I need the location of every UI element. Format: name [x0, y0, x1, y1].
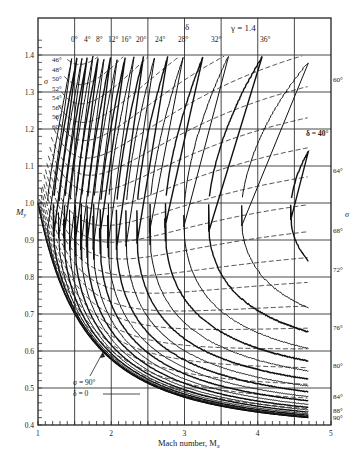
delta-label: 0° — [71, 35, 78, 44]
sigma-symbol-right: σ — [345, 210, 350, 219]
x-tick-label: 2 — [109, 429, 113, 438]
gamma-label: γ = 1.4 — [230, 23, 256, 33]
sigma-right-label: 84° — [333, 393, 343, 401]
y-tick-label: 1.1 — [25, 162, 35, 171]
x-axis-title: Mach number, Mx — [158, 438, 220, 449]
sigma-left-label: 60° — [52, 123, 62, 131]
delta-label: 12° — [108, 35, 119, 44]
delta-curve-18 — [93, 60, 308, 405]
delta-curve-36 — [209, 57, 309, 333]
y-tick-label: 1.4 — [25, 51, 35, 60]
sigma-left-label: 54° — [52, 94, 62, 102]
sigma-left-label: 46° — [52, 56, 62, 64]
sigma-right-label: 68° — [333, 227, 343, 235]
oblique-shock-chart: 123450.40.50.60.70.80.91.01.11.21.31.4 γ… — [0, 0, 364, 465]
y-axis-title: My — [15, 207, 27, 218]
y-tick-label: 0.4 — [25, 421, 35, 430]
sigma-left-label: 58° — [52, 113, 62, 121]
sigma-right-label: 72° — [333, 266, 343, 274]
sigma-left-label: 52° — [52, 85, 62, 93]
delta-curve-28 — [137, 56, 308, 379]
delta-curve-32 — [165, 57, 308, 361]
y-tick-label: 0.7 — [25, 310, 35, 319]
delta-40-label: δ = 40° — [306, 129, 328, 138]
delta-symbol: δ — [185, 22, 189, 32]
sigma-right-label: 76° — [333, 324, 343, 332]
sigma-curve-66 — [45, 170, 307, 243]
delta-label: 32° — [211, 35, 222, 44]
sigma-left-label: 48° — [52, 66, 62, 74]
y-tick-label: 0.6 — [25, 347, 35, 356]
x-tick-label: 4 — [256, 429, 260, 438]
sigma-curve-82 — [40, 203, 308, 384]
y-tick-label: 1.3 — [25, 88, 35, 97]
sigma-right-label: 64° — [333, 167, 343, 175]
delta-label: 28° — [178, 35, 189, 44]
sigma-right-label: 80° — [333, 362, 343, 370]
y-tick-label: 0.5 — [25, 384, 35, 393]
delta-label: 16° — [121, 35, 132, 44]
delta-label: 4° — [84, 35, 91, 44]
y-tick-label: 1.2 — [25, 125, 35, 134]
delta-label: 24° — [155, 35, 166, 44]
y-tick-label: 1.0 — [25, 199, 35, 208]
delta-curve-26 — [126, 58, 308, 386]
sigma-right-label: 90° — [333, 414, 343, 422]
delta-label: 8° — [96, 35, 103, 44]
x-tick-label: 5 — [329, 429, 333, 438]
y-tick-label: 0.9 — [25, 236, 35, 245]
y-tick-label: 0.8 — [25, 273, 35, 282]
callout-sigma: σ = 90° — [73, 378, 96, 387]
delta-label: 20° — [136, 35, 147, 44]
x-tick-label: 1 — [36, 429, 40, 438]
sigma-curve-68 — [44, 175, 308, 260]
sigma-left-label: 56° — [52, 104, 62, 112]
callout-delta: δ = 0 — [73, 389, 89, 398]
delta-curve-38 — [242, 63, 309, 308]
x-tick-label: 3 — [183, 429, 187, 438]
sigma-right-label: 60° — [333, 76, 343, 84]
delta-label: 36° — [260, 35, 271, 44]
callout-arrow — [90, 352, 103, 376]
sigma-left-label: 50° — [52, 75, 62, 83]
sigma-symbol-left: σ — [44, 77, 49, 86]
